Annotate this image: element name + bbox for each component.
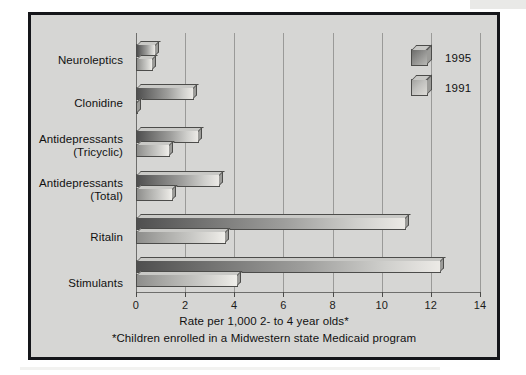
x-tick-2 xyxy=(185,292,186,297)
x-tick-10 xyxy=(382,292,383,297)
x-tick-label-0: 0 xyxy=(133,299,139,311)
x-tick-6 xyxy=(283,292,284,297)
chart-footnote: *Children enrolled in a Midwestern state… xyxy=(31,332,497,344)
x-axis-title: Rate per 1,000 2- to 4 year olds* xyxy=(31,315,497,327)
gridline-12 xyxy=(431,33,432,292)
bar-1991-antidepressants-tricyclic xyxy=(136,144,170,157)
category-label-antidepressants-tricyclic: Antidepressants (Tricyclic) xyxy=(39,133,123,159)
page-bottom-artifact xyxy=(20,367,440,370)
category-label-ritalin: Ritalin xyxy=(90,231,123,244)
x-tick-label-10: 10 xyxy=(375,299,388,311)
bar-1995-clonidine xyxy=(136,87,194,100)
gridline-2 xyxy=(185,33,186,292)
x-tick-0 xyxy=(136,292,137,297)
bar-1991-clonidine xyxy=(136,101,138,114)
x-tick-4 xyxy=(234,292,235,297)
chart-plot-area xyxy=(136,33,480,292)
chart-figure-frame: Neuroleptics Clonidine Antidepressants (… xyxy=(28,12,500,360)
x-tick-label-6: 6 xyxy=(280,299,286,311)
category-label-antidepressants-total: Antidepressants (Total) xyxy=(39,177,123,203)
gridline-14 xyxy=(480,33,481,292)
legend-label-1991: 1991 xyxy=(445,82,471,94)
x-tick-12 xyxy=(431,292,432,297)
gridline-8 xyxy=(333,33,334,292)
legend-swatch-1995-icon xyxy=(411,49,428,66)
bar-1991-stimulants xyxy=(136,274,238,287)
category-label-neuroleptics: Neuroleptics xyxy=(58,54,123,67)
bar-1991-neuroleptics xyxy=(136,58,153,71)
gridline-4 xyxy=(234,33,235,292)
page-corner-artifact xyxy=(470,0,526,9)
legend-swatch-1991-icon xyxy=(411,79,428,96)
x-tick-label-2: 2 xyxy=(182,299,188,311)
legend-label-1995: 1995 xyxy=(445,52,471,64)
gridline-0 xyxy=(136,33,137,292)
x-tick-label-4: 4 xyxy=(231,299,237,311)
category-label-clonidine: Clonidine xyxy=(74,97,123,110)
category-label-stimulants: Stimulants xyxy=(68,277,123,290)
x-tick-label-14: 14 xyxy=(474,299,487,311)
x-tick-label-8: 8 xyxy=(329,299,335,311)
bar-1991-antidepressants-total xyxy=(136,188,173,201)
bar-1991-ritalin xyxy=(136,231,226,244)
x-axis-line xyxy=(136,292,481,293)
gridline-10 xyxy=(382,33,383,292)
gridline-6 xyxy=(283,33,284,292)
x-tick-label-12: 12 xyxy=(425,299,438,311)
chart-plot-wrapper: Neuroleptics Clonidine Antidepressants (… xyxy=(31,15,497,357)
x-tick-14 xyxy=(480,292,481,297)
x-tick-8 xyxy=(333,292,334,297)
